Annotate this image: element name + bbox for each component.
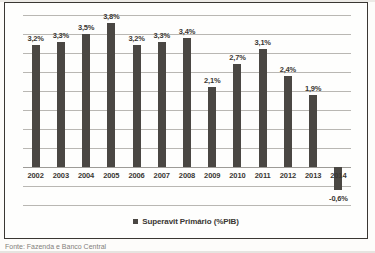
bar-value-label: 2,1% [204,76,220,85]
bar-value-label: 3,8% [103,12,119,21]
bar [32,45,40,167]
chart-legend: Superavit Primário (%PIB) [5,217,367,226]
bar-value-label: 2,7% [229,53,245,62]
bar-value-label: 3,5% [78,23,94,32]
x-axis-labels: 2002200320042005200620072008200920102011… [23,171,351,183]
bar-value-label: 3,2% [27,34,43,43]
bar-value-label: 3,4% [179,27,195,36]
bar-value-label: 3,3% [53,31,69,40]
x-axis-label: 2005 [99,171,124,180]
bar-value-label: 3,3% [154,31,170,40]
bar-value-label: 2,4% [280,65,296,74]
x-axis-label: 2008 [174,171,199,180]
bar-value-label: 3,2% [128,34,144,43]
bar [233,64,241,167]
bar [208,87,216,167]
bar-value-label: 1,9% [305,84,321,93]
scanned-page: 3,2%3,3%3,5%3,8%3,2%3,3%3,4%2,1%2,7%3,1%… [0,0,375,253]
bar [107,23,115,167]
bar [284,76,292,167]
x-axis-label: 2002 [23,171,48,180]
bar [57,42,65,167]
x-axis-label: 2013 [301,171,326,180]
bar [158,42,166,167]
chart-frame: 3,2%3,3%3,5%3,8%3,2%3,3%3,4%2,1%2,7%3,1%… [4,2,368,239]
source-note: Fonte: Fazenda e Banco Central [5,243,106,250]
bar-value-label: 3,1% [255,38,271,47]
x-axis-label: 2006 [124,171,149,180]
x-axis-label: 2003 [48,171,73,180]
bar [82,34,90,167]
filled-square-icon [133,219,138,224]
x-axis-label: 2011 [250,171,275,180]
x-axis-label: 2007 [149,171,174,180]
bar [309,95,317,167]
x-axis-label: 2012 [275,171,300,180]
bar [259,49,267,167]
x-axis-label: 2014 [326,171,351,180]
x-axis-label: 2009 [200,171,225,180]
bar [133,45,141,167]
legend-label: Superavit Primário (%PIB) [142,217,239,226]
x-axis-label: 2010 [225,171,250,180]
x-axis-label: 2004 [73,171,98,180]
bar-value-label: -0,6% [329,194,348,203]
gridline [23,205,351,206]
bar [183,38,191,167]
